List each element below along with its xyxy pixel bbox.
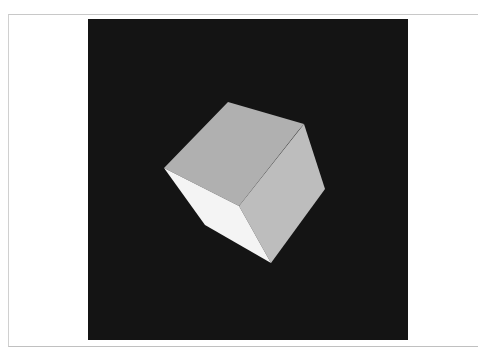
cube-render bbox=[88, 19, 408, 340]
render-viewport bbox=[88, 19, 408, 340]
